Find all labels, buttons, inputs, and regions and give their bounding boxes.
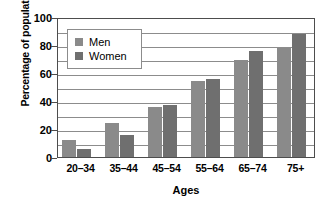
x-axis-tick-label: 20–34	[66, 162, 94, 174]
bar-group	[273, 19, 316, 157]
legend-item-men[interactable]: Men	[75, 35, 135, 49]
x-axis-tick-labels: 20–3435–4445–5455–6465–7475+	[57, 162, 315, 178]
bar-women-5[interactable]	[292, 34, 306, 157]
x-axis-tick-label: 65–74	[238, 162, 266, 174]
y-axis-tick-labels: 020406080100	[22, 18, 52, 158]
legend-swatch-icon	[75, 38, 83, 46]
x-axis-title: Ages	[57, 184, 315, 196]
bar-men-5[interactable]	[277, 48, 291, 157]
bar-men-4[interactable]	[234, 60, 248, 157]
y-axis-tick-label: 80	[22, 41, 52, 52]
legend-swatch-icon	[75, 52, 83, 60]
bar-group	[187, 19, 230, 157]
x-axis-tick-label: 75+	[287, 162, 304, 174]
x-axis-tick-label: 55–64	[195, 162, 223, 174]
bar-men-1[interactable]	[105, 123, 119, 157]
bar-group	[144, 19, 187, 157]
y-axis-tick-mark	[51, 158, 57, 159]
bar-men-2[interactable]	[148, 107, 162, 157]
legend: MenWomen	[67, 29, 142, 69]
legend-label: Women	[89, 51, 127, 62]
legend-label: Men	[89, 37, 110, 48]
bar-women-1[interactable]	[120, 135, 134, 157]
y-axis-tick-label: 40	[22, 97, 52, 108]
y-axis-tick-label: 20	[22, 125, 52, 136]
x-axis-tick-label: 35–44	[109, 162, 137, 174]
bar-group	[230, 19, 273, 157]
bar-women-3[interactable]	[206, 79, 220, 157]
y-axis-tick-label: 60	[22, 69, 52, 80]
x-axis-tick-label: 45–54	[152, 162, 180, 174]
bar-women-2[interactable]	[163, 105, 177, 157]
bar-men-3[interactable]	[191, 81, 205, 157]
bar-men-0[interactable]	[62, 140, 76, 157]
bar-chart-figure: Percentage of population 020406080100 Me…	[0, 0, 331, 215]
bar-women-0[interactable]	[77, 149, 91, 157]
y-axis-tick-label: 100	[22, 13, 52, 24]
y-axis-tick-label: 0	[22, 153, 52, 164]
legend-item-women[interactable]: Women	[75, 49, 135, 63]
bar-women-4[interactable]	[249, 51, 263, 157]
